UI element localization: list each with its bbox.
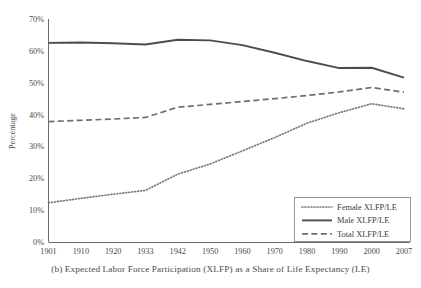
y-axis-tick-labels: 0%10%20%30%40%50%60%70% [29, 15, 44, 247]
x-tick-label: 1990 [331, 247, 347, 256]
x-tick-label: 1920 [105, 247, 121, 256]
legend-label: Total XLFP/LE [337, 230, 389, 239]
x-tick-label: 1960 [234, 247, 250, 256]
y-tick-label: 40% [29, 111, 44, 120]
chart-plot-area: 0%10%20%30%40%50%60%70% 1901191019201933… [0, 0, 421, 262]
series-line-male [49, 40, 405, 78]
x-tick-label: 1942 [170, 247, 186, 256]
x-tick-label: 1950 [202, 247, 218, 256]
figure-container: 0%10%20%30%40%50%60%70% 1901191019201933… [0, 0, 421, 288]
x-tick-label: 1933 [137, 247, 153, 256]
chart-legend[interactable]: Female XLFP/LEMale XLFP/LETotal XLFP/LE [295, 198, 411, 242]
legend-label: Male XLFP/LE [337, 216, 389, 225]
x-tick-label: 1980 [299, 247, 315, 256]
x-tick-label: 1910 [73, 247, 89, 256]
line-chart: 0%10%20%30%40%50%60%70% 1901191019201933… [0, 0, 421, 262]
y-axis-title: Percentage [8, 113, 17, 149]
x-tick-label: 2007 [396, 247, 412, 256]
y-tick-label: 0% [33, 238, 44, 247]
y-tick-label: 60% [29, 47, 44, 56]
x-axis-tick-labels: 1901191019201933194219501960197019801990… [40, 247, 412, 256]
series-line-female [49, 104, 405, 203]
x-tick-label: 1901 [40, 247, 56, 256]
y-tick-label: 30% [29, 142, 44, 151]
x-tick-label: 2000 [363, 247, 379, 256]
x-tick-label: 1970 [267, 247, 283, 256]
y-tick-label: 20% [29, 174, 44, 183]
y-tick-label: 10% [29, 206, 44, 215]
figure-caption: (b) Expected Labor Force Participation (… [0, 264, 421, 274]
y-tick-label: 50% [29, 79, 44, 88]
legend-label: Female XLFP/LE [337, 203, 397, 212]
y-tick-label: 70% [29, 15, 44, 24]
series-line-total [49, 87, 405, 121]
